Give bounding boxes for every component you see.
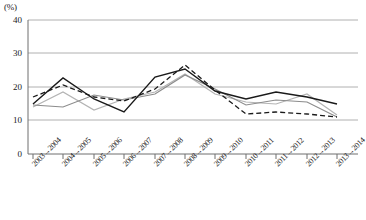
line-chart: (%) 0 10 20 30 40 — [0, 0, 366, 220]
series-dashed-black-line — [33, 65, 337, 117]
plot-area — [0, 0, 366, 220]
series-gray-mid-line — [33, 75, 337, 117]
series-group — [33, 65, 337, 117]
gridlines — [28, 20, 358, 120]
